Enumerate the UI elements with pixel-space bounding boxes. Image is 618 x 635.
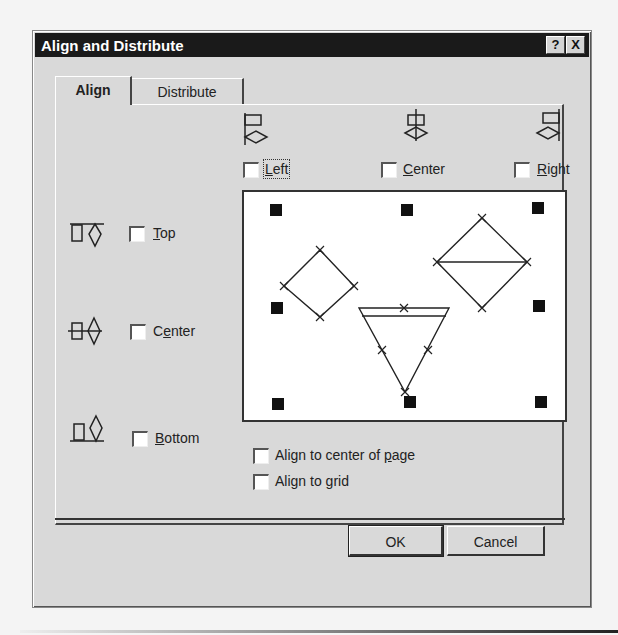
horizontal-center-label[interactable]: Center: [403, 161, 445, 177]
cancel-button[interactable]: Cancel: [447, 526, 545, 556]
top-label[interactable]: Top: [153, 225, 176, 241]
align-tab-panel: Left Center Right Top Center Bottom: [55, 104, 564, 525]
vertical-center-label[interactable]: Center: [153, 323, 195, 339]
align-center-horizontal-icon: [401, 107, 431, 143]
align-right-icon: [531, 107, 561, 143]
right-checkbox[interactable]: [514, 162, 530, 178]
close-button[interactable]: X: [566, 36, 585, 54]
help-button[interactable]: ?: [546, 36, 565, 54]
align-distribute-dialog: Align and Distribute ? X Align Distribut…: [32, 30, 592, 608]
top-checkbox[interactable]: [129, 226, 145, 242]
separator: [55, 518, 565, 520]
right-label[interactable]: Right: [537, 161, 570, 177]
horizontal-center-checkbox[interactable]: [381, 162, 397, 178]
left-label[interactable]: Left: [265, 161, 288, 177]
left-checkbox[interactable]: [243, 162, 259, 178]
tab-align[interactable]: Align: [55, 76, 132, 105]
align-top-icon: [68, 222, 108, 248]
title-bar[interactable]: Align and Distribute ? X: [35, 33, 589, 57]
align-to-grid-label[interactable]: Align to grid: [275, 473, 349, 489]
dialog-title: Align and Distribute: [41, 37, 184, 54]
preview-shapes: [244, 192, 565, 420]
bottom-label[interactable]: Bottom: [155, 430, 199, 446]
align-to-grid-checkbox[interactable]: [253, 474, 269, 490]
tab-distribute[interactable]: Distribute: [131, 78, 244, 105]
align-center-of-page-checkbox[interactable]: [253, 448, 269, 464]
ok-button[interactable]: OK: [349, 526, 443, 556]
align-center-vertical-icon: [66, 316, 106, 346]
alignment-preview: [242, 190, 567, 422]
page-edge-shadow: [20, 630, 618, 633]
align-center-of-page-label[interactable]: Align to center of page: [275, 447, 415, 463]
bottom-checkbox[interactable]: [132, 431, 148, 447]
align-bottom-icon: [68, 414, 108, 444]
vertical-center-checkbox[interactable]: [130, 324, 146, 340]
anchor-markers: [270, 202, 547, 410]
align-left-icon: [243, 111, 273, 147]
